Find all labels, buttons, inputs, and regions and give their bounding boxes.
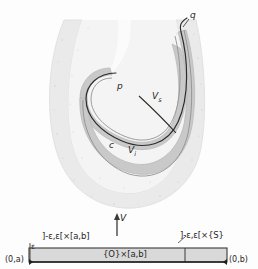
label-center-box: {O}×[a,b] xyxy=(103,250,147,259)
label-curve-c: c xyxy=(109,141,114,150)
label-vi: Vi xyxy=(128,146,136,157)
label-point-p: p xyxy=(117,82,123,91)
label-vs: Vs xyxy=(152,92,162,103)
label-corner-right: (0,b) xyxy=(229,256,248,264)
label-vs-sub: s xyxy=(158,96,161,104)
label-epsilon: ε xyxy=(31,243,35,251)
label-corner-left: (0,a) xyxy=(5,256,24,264)
label-vi-sub: i xyxy=(134,150,136,158)
figure-page: q p c Vs Vi V ]-ε,ε[×[a,b] ]-ε,ε[×{S} {O… xyxy=(0,0,258,269)
label-left-bracket: ]-ε,ε[×[a,b] xyxy=(42,232,89,241)
label-right-bracket: ]-ε,ε[×{S} xyxy=(180,231,224,240)
figure-canvas xyxy=(0,0,258,269)
label-point-q: q xyxy=(190,11,196,20)
label-flow-v: V xyxy=(120,214,126,223)
